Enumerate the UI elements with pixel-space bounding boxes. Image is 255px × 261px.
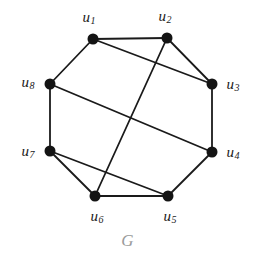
graph-drawing bbox=[0, 0, 255, 261]
vertex-label-base: u bbox=[22, 74, 30, 90]
vertex-label-subscript: 5 bbox=[172, 214, 177, 225]
vertex-label-subscript: 8 bbox=[30, 80, 35, 91]
vertex-label-subscript: 3 bbox=[235, 82, 240, 93]
vertex-label-subscript: 4 bbox=[235, 150, 240, 161]
graph-edge bbox=[50, 84, 212, 152]
graph-vertex-u6 bbox=[90, 191, 101, 202]
graph-edge bbox=[50, 39, 93, 84]
graph-vertex-u1 bbox=[88, 34, 99, 45]
graph-vertex-u4 bbox=[207, 147, 218, 158]
graph-vertex-u2 bbox=[162, 33, 173, 44]
graph-vertex-u5 bbox=[163, 191, 174, 202]
vertex-label-u3: u3 bbox=[227, 77, 240, 93]
vertex-label-base: u bbox=[22, 143, 30, 159]
vertex-label-u2: u2 bbox=[159, 9, 172, 25]
graph-edge bbox=[167, 38, 212, 84]
graph-edge bbox=[50, 151, 95, 196]
vertex-label-u8: u8 bbox=[22, 75, 35, 91]
vertex-label-u4: u4 bbox=[227, 145, 240, 161]
graph-figure: u1u2u3u4u5u6u7u8 G bbox=[0, 0, 255, 261]
vertex-label-u6: u6 bbox=[91, 209, 104, 225]
vertex-label-base: u bbox=[227, 76, 235, 92]
graph-edge bbox=[50, 151, 168, 196]
vertex-label-base: u bbox=[159, 8, 167, 24]
vertex-label-subscript: 6 bbox=[99, 214, 104, 225]
vertex-label-base: u bbox=[164, 208, 172, 224]
graph-vertex-u8 bbox=[45, 79, 56, 90]
vertex-label-subscript: 2 bbox=[167, 14, 172, 25]
vertex-label-subscript: 7 bbox=[30, 149, 35, 160]
graph-edge bbox=[93, 38, 167, 39]
graph-caption: G bbox=[0, 232, 255, 249]
graph-edge bbox=[168, 152, 212, 196]
vertex-label-base: u bbox=[227, 144, 235, 160]
vertex-label-base: u bbox=[83, 9, 91, 25]
vertex-label-subscript: 1 bbox=[91, 15, 96, 26]
vertex-label-u5: u5 bbox=[164, 209, 177, 225]
vertex-label-base: u bbox=[91, 208, 99, 224]
vertex-label-u7: u7 bbox=[22, 144, 35, 160]
vertex-label-u1: u1 bbox=[83, 10, 96, 26]
graph-edge bbox=[93, 39, 212, 84]
graph-vertex-u7 bbox=[45, 146, 56, 157]
graph-vertex-u3 bbox=[207, 79, 218, 90]
edge-layer bbox=[50, 38, 212, 196]
